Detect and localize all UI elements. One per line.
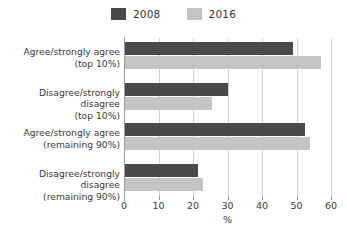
category-label-0: Agree/strongly agree(top 10%) — [0, 46, 120, 69]
bar-2008-1[interactable] — [124, 83, 228, 96]
bar-2016-2[interactable] — [124, 137, 310, 150]
x-tick-label-30: 30 — [221, 200, 233, 211]
x-tick-mark — [228, 196, 229, 200]
bar-2008-2[interactable] — [124, 123, 305, 136]
x-tick-mark — [159, 196, 160, 200]
category-label-line2: (top 10%) — [0, 58, 120, 70]
gridline — [331, 38, 332, 200]
chart-legend: 2008 2016 — [0, 8, 347, 20]
category-label-line2: (top 10%) — [0, 110, 120, 122]
category-label-line1: Agree/strongly agree — [23, 127, 120, 138]
x-tick-label-50: 50 — [290, 200, 302, 211]
bar-2008-3[interactable] — [124, 164, 198, 177]
x-tick-label-0: 0 — [121, 200, 127, 211]
bar-group — [124, 79, 331, 120]
bar-2016-3[interactable] — [124, 178, 203, 191]
category-label-line2: (remaining 90%) — [0, 139, 120, 151]
category-label-line1: Agree/strongly agree — [23, 46, 120, 57]
bar-2008-0[interactable] — [124, 42, 293, 55]
x-tick-label-20: 20 — [187, 200, 199, 211]
category-axis-labels: Agree/strongly agree(top 10%)Disagree/st… — [0, 38, 120, 200]
bar-group — [124, 160, 331, 201]
legend-swatch-2008 — [111, 8, 126, 20]
x-tick-label-60: 60 — [325, 200, 337, 211]
category-label-line2: (remaining 90%) — [0, 191, 120, 203]
bar-2016-1[interactable] — [124, 97, 212, 110]
x-tick-mark — [297, 196, 298, 200]
x-tick-mark — [193, 196, 194, 200]
category-label-line1: Disagree/strongly disagree — [39, 168, 120, 191]
legend-item-2008: 2008 — [111, 8, 161, 20]
category-label-3: Disagree/strongly disagree(remaining 90%… — [0, 168, 120, 203]
x-axis-label: % — [124, 214, 331, 225]
bar-2016-0[interactable] — [124, 56, 321, 69]
category-label-line1: Disagree/strongly disagree — [39, 87, 120, 110]
legend-label-2016: 2016 — [209, 9, 237, 20]
x-tick-label-40: 40 — [256, 200, 268, 211]
legend-label-2008: 2008 — [133, 9, 161, 20]
x-tick-mark — [331, 196, 332, 200]
y-axis-line — [124, 37, 125, 201]
x-tick-label-10: 10 — [152, 200, 164, 211]
x-tick-mark — [262, 196, 263, 200]
bar-chart: 2008 2016 Agree/strongly agree(top 10%)D… — [0, 0, 347, 235]
x-tick-mark — [124, 196, 125, 200]
legend-item-2016: 2016 — [187, 8, 237, 20]
bar-group — [124, 38, 331, 79]
plot-area — [124, 38, 331, 200]
bar-group — [124, 119, 331, 160]
category-label-1: Disagree/strongly disagree(top 10%) — [0, 87, 120, 122]
bar-groups — [124, 38, 331, 200]
legend-swatch-2016 — [187, 8, 202, 20]
category-label-2: Agree/strongly agree(remaining 90%) — [0, 127, 120, 150]
